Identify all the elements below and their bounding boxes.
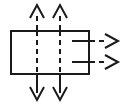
diagram-canvas (0, 0, 128, 105)
right-upper-arrow (90, 34, 118, 48)
right-upper-arrow-head-icon (105, 34, 118, 48)
top-right-arrow (53, 5, 67, 30)
flow-diagram (0, 0, 128, 105)
top-left-arrow (30, 5, 44, 30)
bottom-left-arrow (30, 75, 44, 100)
control-volume-rectangle (11, 31, 89, 74)
right-lower-arrow-head-icon (105, 55, 118, 69)
bottom-right-arrow (53, 75, 67, 100)
right-lower-arrow (90, 55, 118, 69)
